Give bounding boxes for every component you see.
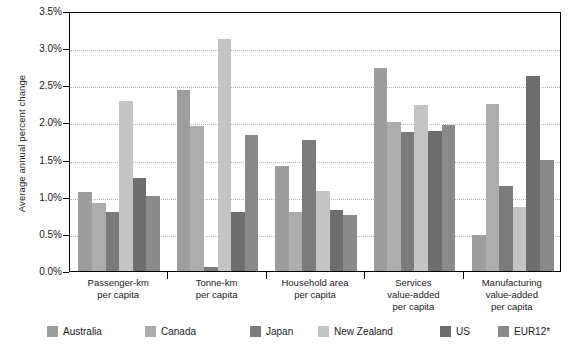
- x-category-label: Servicesvalue-addedper capita: [364, 277, 462, 314]
- bar: [245, 135, 259, 271]
- legend-item-eur12[interactable]: EUR12*: [498, 326, 550, 337]
- legend-item-us[interactable]: US: [440, 326, 470, 337]
- y-tick-label: 1.5%: [14, 156, 62, 166]
- x-category-label: Household areaper capita: [266, 277, 364, 301]
- x-category-label-line: Manufacturing: [463, 277, 561, 289]
- bar: [414, 105, 428, 271]
- legend-swatch-icon: [318, 326, 329, 337]
- x-category-label-line: Tonne-km: [167, 277, 265, 289]
- legend-item-canada[interactable]: Canada: [145, 326, 196, 337]
- legend-label: Canada: [161, 326, 196, 337]
- x-category-label-line: per capita: [463, 301, 561, 313]
- legend-label: EUR12*: [514, 326, 550, 337]
- bar: [343, 215, 357, 271]
- bar: [428, 131, 442, 271]
- x-category-label-line: Services: [364, 277, 462, 289]
- x-category-label-line: per capita: [364, 301, 462, 313]
- bar: [540, 160, 554, 271]
- y-tick-label: 3.0%: [14, 44, 62, 54]
- bar: [472, 235, 486, 271]
- x-category-label-line: per capita: [69, 289, 167, 301]
- legend-item-australia[interactable]: Australia: [47, 326, 102, 337]
- bar: [119, 101, 133, 271]
- legend-item-new-zealand[interactable]: New Zealand: [318, 326, 393, 337]
- bar: [330, 210, 344, 271]
- x-category-label-line: value-added: [463, 289, 561, 301]
- bar: [92, 203, 106, 271]
- x-category-label-line: per capita: [266, 289, 364, 301]
- bar: [204, 267, 218, 271]
- bar-chart: Average annual percent change 0.0%0.5%1.…: [0, 0, 571, 352]
- legend-item-japan[interactable]: Japan: [250, 326, 293, 337]
- bar: [499, 186, 513, 271]
- bar: [374, 68, 388, 271]
- bar: [133, 178, 147, 271]
- bar: [146, 196, 160, 271]
- legend-label: New Zealand: [334, 326, 393, 337]
- legend-label: Australia: [63, 326, 102, 337]
- bar: [218, 39, 232, 271]
- bar: [513, 207, 527, 271]
- x-category-label-line: value-added: [364, 289, 462, 301]
- chart-legend: AustraliaCanadaJapanNew ZealandUSEUR12*: [0, 326, 571, 346]
- bar: [387, 122, 401, 271]
- legend-swatch-icon: [145, 326, 156, 337]
- x-category-label: Tonne-kmper capita: [167, 277, 265, 301]
- legend-label: US: [456, 326, 470, 337]
- y-tick-label: 0.0%: [14, 267, 62, 277]
- bar: [106, 212, 120, 271]
- plot-area: [69, 12, 561, 272]
- x-category-label: Manufacturingvalue-addedper capita: [463, 277, 561, 314]
- legend-swatch-icon: [47, 326, 58, 337]
- bar: [526, 76, 540, 271]
- y-tick-label: 2.0%: [14, 118, 62, 128]
- legend-label: Japan: [266, 326, 293, 337]
- bar: [190, 126, 204, 271]
- bar: [486, 104, 500, 271]
- bar: [275, 166, 289, 271]
- bar: [442, 125, 456, 271]
- bar: [231, 212, 245, 271]
- x-category-label-line: Household area: [266, 277, 364, 289]
- x-category-label: Passenger-kmper capita: [69, 277, 167, 301]
- x-category-label-line: per capita: [167, 289, 265, 301]
- bar: [78, 192, 92, 271]
- legend-swatch-icon: [440, 326, 451, 337]
- bar: [177, 90, 191, 271]
- y-tick-mark: [63, 272, 69, 273]
- y-tick-label: 1.0%: [14, 193, 62, 203]
- bar: [302, 140, 316, 271]
- y-tick-label: 2.5%: [14, 81, 62, 91]
- x-category-label-line: Passenger-km: [69, 277, 167, 289]
- bar: [401, 132, 415, 271]
- y-tick-label: 3.5%: [14, 7, 62, 17]
- bar: [316, 191, 330, 271]
- legend-swatch-icon: [250, 326, 261, 337]
- bar: [289, 212, 303, 271]
- legend-swatch-icon: [498, 326, 509, 337]
- y-tick-label: 0.5%: [14, 230, 62, 240]
- bars-layer: [70, 13, 560, 271]
